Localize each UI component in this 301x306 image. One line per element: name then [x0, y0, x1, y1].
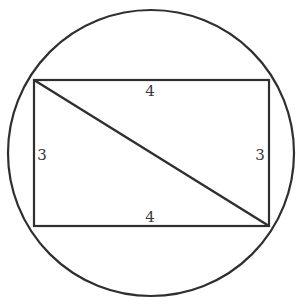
left-side-label: 3: [37, 146, 47, 164]
geometry-diagram: 4 4 3 3: [0, 0, 301, 306]
rectangle-diagonal: [34, 80, 269, 226]
top-side-label: 4: [145, 82, 155, 100]
bottom-side-label: 4: [145, 208, 155, 226]
right-side-label: 3: [255, 146, 265, 164]
